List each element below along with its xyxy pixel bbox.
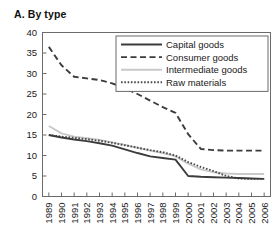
legend-label: Capital goods [166,39,224,50]
y-axis-tick-label: 10 [26,150,37,161]
y-axis-tick-marks [43,33,47,197]
line-chart: 0510152025303540 19891990199119921993199… [0,24,279,239]
x-axis-tick-label: 2004 [233,203,244,224]
y-axis-tick-label: 20 [26,109,37,120]
x-axis-tick-label: 1999 [170,203,181,224]
legend-label: Intermediate goods [166,64,248,75]
x-axis-tick-label: 1990 [56,203,67,224]
x-axis-tick-labels: 1989199019911992199319941995199619971998… [43,203,269,224]
page-title: A. By type [14,8,66,20]
x-axis-tick-label: 1991 [69,203,80,224]
y-axis-tick-label: 40 [26,27,37,38]
y-axis-tick-label: 15 [26,129,37,140]
x-axis-tick-label: 2003 [221,203,232,224]
y-axis-tick-labels: 0510152025303540 [26,27,37,202]
y-axis-tick-label: 30 [26,68,37,79]
chart-legend: Capital goodsConsumer goodsIntermediate … [116,36,268,91]
x-axis-tick-label: 2006 [259,203,270,224]
x-axis-tick-marks [49,193,264,197]
x-axis-tick-label: 2001 [195,203,206,224]
x-axis-tick-label: 2005 [246,203,257,224]
x-axis-tick-label: 1996 [132,203,143,224]
y-axis-tick-label: 35 [26,47,37,58]
x-axis-tick-label: 1994 [107,203,118,224]
x-axis-tick-label: 1997 [145,203,156,224]
x-axis-tick-label: 1993 [94,203,105,224]
y-axis-tick-label: 5 [32,170,37,181]
legend-label: Consumer goods [166,52,239,63]
chart-panel: A. By type 0510152025303540 198919901991… [0,0,279,239]
y-axis-tick-label: 0 [32,191,37,202]
x-axis-tick-label: 1998 [157,203,168,224]
series-line [49,135,264,179]
x-axis-tick-label: 1995 [119,203,130,224]
x-axis-tick-label: 2000 [183,203,194,224]
x-axis-tick-label: 1992 [81,203,92,224]
y-axis-tick-label: 25 [26,88,37,99]
x-axis-tick-label: 1989 [43,203,54,224]
chart-svg: 0510152025303540 19891990199119921993199… [0,24,279,239]
x-axis-tick-label: 2002 [208,203,219,224]
legend-label: Raw materials [166,77,226,88]
